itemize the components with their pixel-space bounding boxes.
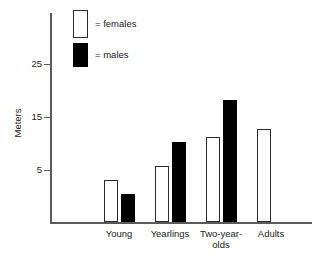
bar-adults-females	[257, 129, 271, 222]
y-axis-title: Meters	[13, 93, 23, 153]
legend-swatch-females-icon	[73, 10, 88, 38]
bar-two-year-olds-females	[206, 137, 220, 222]
bar-young-males	[121, 194, 135, 222]
x-label-adults: Adults	[243, 229, 299, 240]
legend-swatch-males-icon	[73, 43, 88, 67]
bar-young-females	[104, 180, 118, 222]
x-axis-line	[50, 222, 312, 224]
y-tick-label-25: 25	[0, 59, 42, 69]
y-tick-mark-5	[44, 170, 51, 171]
legend-row-females: = females	[73, 10, 136, 38]
y-tick-label-5: 5	[0, 165, 42, 175]
bar-yearlings-males	[172, 142, 186, 222]
bar-yearlings-females	[155, 166, 169, 222]
legend-label-males: = males	[95, 50, 129, 60]
y-tick-mark-15	[44, 117, 51, 118]
legend-label-females: = females	[95, 19, 136, 29]
legend-row-males: = males	[73, 43, 129, 67]
y-tick-mark-25	[44, 64, 51, 65]
bar-two-year-olds-males	[223, 100, 237, 222]
bar-chart: 25 15 5 Meters Young Yearlings Two-year-…	[0, 0, 315, 259]
